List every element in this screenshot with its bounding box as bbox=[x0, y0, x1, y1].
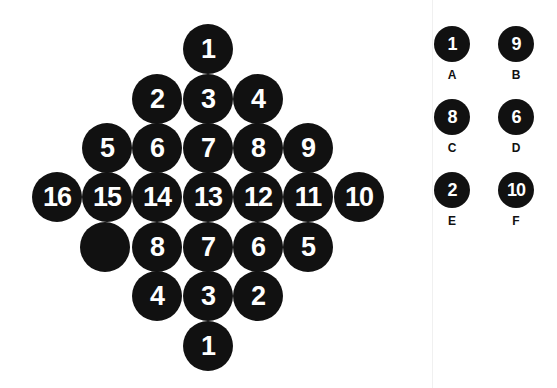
puzzle-circle: 8 bbox=[132, 222, 182, 272]
puzzle-circle: 16 bbox=[32, 172, 82, 222]
option-circle: 6 bbox=[498, 99, 534, 135]
puzzle-circle: 9 bbox=[283, 123, 333, 173]
puzzle-circle: 11 bbox=[283, 172, 333, 222]
puzzle-circle: 6 bbox=[132, 123, 182, 173]
puzzle-circle: 7 bbox=[183, 222, 233, 272]
option-d[interactable]: 6 D bbox=[496, 99, 536, 161]
missing-number-circle bbox=[80, 222, 130, 272]
option-label: A bbox=[432, 68, 472, 82]
option-label: C bbox=[432, 141, 472, 155]
puzzle-circle: 2 bbox=[132, 74, 182, 124]
puzzle-circle: 4 bbox=[233, 74, 283, 124]
puzzle-circle: 3 bbox=[183, 74, 233, 124]
option-c[interactable]: 8 C bbox=[432, 99, 472, 161]
option-label: F bbox=[496, 214, 536, 228]
option-f[interactable]: 10 F bbox=[496, 172, 536, 234]
option-circle: 1 bbox=[434, 26, 470, 62]
puzzle-circle: 5 bbox=[82, 123, 132, 173]
option-label: E bbox=[432, 214, 472, 228]
option-e[interactable]: 2 E bbox=[432, 172, 472, 234]
puzzle-circle: 12 bbox=[233, 172, 283, 222]
puzzle-circle: 2 bbox=[233, 271, 283, 321]
puzzle-circle: 1 bbox=[183, 321, 233, 371]
puzzle-circle: 14 bbox=[132, 172, 182, 222]
puzzle-circle: 4 bbox=[132, 271, 182, 321]
option-circle: 2 bbox=[434, 172, 470, 208]
option-a[interactable]: 1 A bbox=[432, 26, 472, 88]
puzzle-circle: 6 bbox=[233, 222, 283, 272]
puzzle-circle: 10 bbox=[334, 172, 384, 222]
option-label: B bbox=[496, 68, 536, 82]
puzzle-circle: 7 bbox=[183, 123, 233, 173]
option-circle: 10 bbox=[498, 172, 534, 208]
option-b[interactable]: 9 B bbox=[496, 26, 536, 88]
option-label: D bbox=[496, 141, 536, 155]
answer-options: 1 A 9 B 8 C 6 D 2 E 10 F bbox=[433, 0, 557, 388]
option-circle: 9 bbox=[498, 26, 534, 62]
puzzle-circle: 8 bbox=[233, 123, 283, 173]
puzzle-circle: 13 bbox=[183, 172, 233, 222]
option-circle: 8 bbox=[434, 99, 470, 135]
puzzle-circle: 3 bbox=[183, 271, 233, 321]
number-diamond-puzzle: 1 2 3 4 5 6 7 8 9 16 15 14 13 12 11 10 8… bbox=[0, 0, 420, 388]
puzzle-circle: 5 bbox=[283, 222, 333, 272]
puzzle-circle: 15 bbox=[82, 172, 132, 222]
puzzle-circle: 1 bbox=[183, 24, 233, 74]
